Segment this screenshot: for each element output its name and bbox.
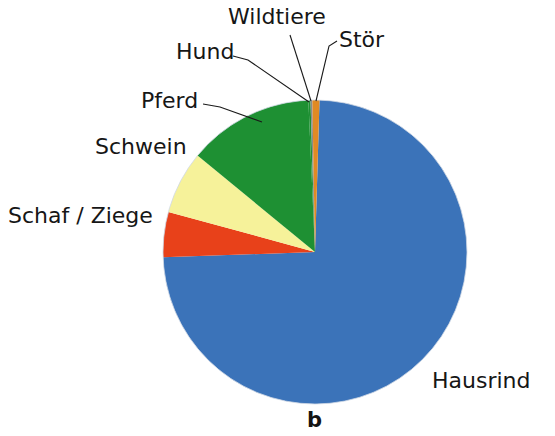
pie-label-schaf-ziege: Schaf / Ziege xyxy=(8,205,153,227)
figure-caption: b xyxy=(307,410,322,431)
leader-line-hund xyxy=(233,56,309,102)
leader-line-stoer xyxy=(316,41,337,101)
pie-label-schwein: Schwein xyxy=(95,136,187,158)
pie-label-hausrind: Hausrind xyxy=(432,370,531,392)
figure-container: Wildtiere Stör Hund Pferd Schwein Schaf … xyxy=(0,0,555,436)
pie-label-hund: Hund xyxy=(176,41,234,63)
pie-label-stoer: Stör xyxy=(339,29,384,51)
pie-label-pferd: Pferd xyxy=(141,90,198,112)
pie-label-wildtiere: Wildtiere xyxy=(228,6,326,28)
